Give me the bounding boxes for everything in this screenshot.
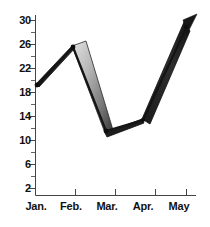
y-tick-label-30: 30	[5, 15, 31, 26]
data-point-may	[184, 25, 188, 29]
y-axis-labels: 30 26 22 18 14 10 6 2	[0, 0, 31, 227]
y-tick-label-14: 14	[5, 111, 31, 122]
x-axis-ticks	[36, 189, 187, 195]
data-point-apr	[141, 118, 145, 122]
ribbon-segment-feb-mar	[72, 41, 113, 133]
chart-container: 30 26 22 18 14 10 6 2 Jan. Feb. Mar. Apr…	[0, 0, 210, 227]
y-axis-minor-ticks	[31, 33, 35, 177]
x-tick-label-may: May	[158, 200, 200, 212]
data-point-mar	[104, 129, 109, 134]
y-tick-label-22: 22	[5, 63, 31, 74]
data-point-jan	[35, 83, 40, 88]
chart-plot-area	[0, 0, 210, 227]
y-tick-label-6: 6	[5, 159, 31, 170]
y-tick-label-10: 10	[5, 135, 31, 146]
axis-lines	[36, 15, 197, 196]
data-point-feb	[71, 45, 76, 50]
y-tick-label-18: 18	[5, 87, 31, 98]
y-tick-label-26: 26	[5, 39, 31, 50]
y-tick-label-2: 2	[5, 183, 31, 194]
x-axis-labels: Jan. Feb. Mar. Apr. May	[0, 200, 210, 220]
